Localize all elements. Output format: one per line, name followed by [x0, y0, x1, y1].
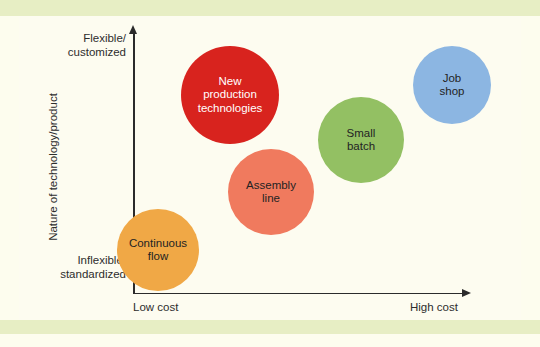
bubble-label: New production technologies — [194, 75, 267, 116]
x-axis-left-label: Low cost — [133, 300, 178, 314]
bubble-job-shop[interactable]: Job shop — [413, 46, 491, 124]
bubble-chart-figure: Flexible/ customized Inflexible/ standar… — [0, 0, 540, 347]
bubble-label: Assembly line — [242, 179, 300, 206]
decorative-band-bottom — [0, 320, 540, 334]
bubble-continuous-flow[interactable]: Continuous flow — [117, 209, 199, 291]
bubble-label: Small batch — [343, 127, 380, 154]
bubble-assembly-line[interactable]: Assembly line — [228, 149, 314, 235]
y-axis-title: Nature of technology/product — [46, 72, 60, 262]
bubble-label: Continuous flow — [125, 237, 191, 264]
bubble-label: Job shop — [436, 72, 469, 99]
bubble-new-production-technologies[interactable]: New production technologies — [181, 46, 279, 144]
bubble-small-batch[interactable]: Small batch — [318, 97, 404, 183]
decorative-band-top — [0, 0, 540, 16]
x-axis-arrow-icon — [462, 289, 471, 297]
y-axis-top-label: Flexible/ customized — [52, 31, 126, 59]
y-axis-arrow-icon — [129, 25, 137, 34]
x-axis-line — [133, 293, 465, 295]
x-axis-right-label: High cost — [410, 300, 458, 314]
